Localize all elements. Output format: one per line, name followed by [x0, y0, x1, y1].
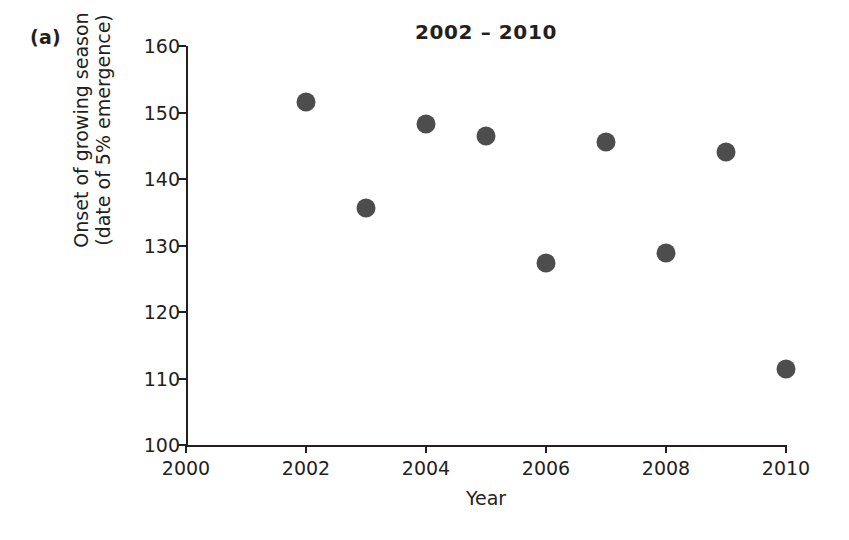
x-tick-mark: [185, 445, 187, 453]
x-tick-label: 2006: [522, 457, 570, 479]
x-axis-line: [186, 445, 786, 447]
x-tick-label: 2000: [162, 457, 210, 479]
data-point: [297, 92, 316, 111]
data-point: [717, 142, 736, 161]
x-tick-mark: [305, 445, 307, 453]
panel-label: (a): [30, 26, 61, 48]
y-tick-label: 150: [144, 102, 180, 124]
data-point: [417, 114, 436, 133]
chart-title: 2002 – 2010: [186, 20, 786, 44]
x-axis-title: Year: [186, 487, 786, 509]
y-tick-label: 160: [144, 35, 180, 57]
y-axis-title-line2: (date of 5% emergence): [92, 14, 114, 246]
x-tick-mark: [425, 445, 427, 453]
data-point: [657, 243, 676, 262]
figure-panel-a: (a) 2002 – 2010 Onset of growing season …: [0, 0, 849, 540]
plot-area: 100110120130140150160 200020022004200620…: [186, 46, 786, 447]
data-point: [597, 133, 616, 152]
y-tick-label: 120: [144, 301, 180, 323]
data-point: [357, 199, 376, 218]
x-tick-label: 2008: [642, 457, 690, 479]
y-axis-title: Onset of growing season (date of 5% emer…: [62, 0, 122, 280]
data-point: [537, 254, 556, 273]
y-axis-line: [186, 46, 188, 447]
x-tick-label: 2004: [402, 457, 450, 479]
y-tick-label: 100: [144, 434, 180, 456]
x-tick-mark: [545, 445, 547, 453]
y-tick-label: 130: [144, 235, 180, 257]
data-point: [777, 360, 796, 379]
y-tick-label: 110: [144, 368, 180, 390]
x-tick-mark: [665, 445, 667, 453]
y-axis-title-line1: Onset of growing season: [70, 12, 92, 247]
x-tick-label: 2002: [282, 457, 330, 479]
x-tick-mark: [785, 445, 787, 453]
x-tick-label: 2010: [762, 457, 810, 479]
y-tick-label: 140: [144, 168, 180, 190]
data-point: [477, 127, 496, 146]
